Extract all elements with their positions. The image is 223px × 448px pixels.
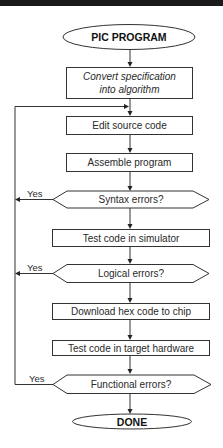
step-test-code-in-simulator: Test code in simulator	[53, 230, 210, 247]
end-node: DONE	[73, 414, 192, 429]
arrowhead-icon	[128, 335, 133, 340]
arrowhead-icon	[128, 224, 133, 229]
decision-syntax-errors: Syntax errors?	[53, 191, 209, 208]
arrowhead-icon	[128, 186, 133, 191]
start-node: PIC PROGRAM	[63, 25, 195, 50]
arrowhead-icon	[128, 259, 133, 264]
step-label: Assemble program	[88, 157, 172, 168]
arrowhead-icon	[128, 111, 133, 116]
decision-logical-errors: Logical errors?	[53, 265, 209, 283]
flowchart: PIC PROGRAM Convert specification into a…	[0, 0, 223, 448]
end-label: DONE	[117, 416, 147, 428]
step-label: Edit source code	[92, 120, 167, 131]
yes-label: Yes	[27, 188, 43, 199]
decision-label: Functional errors?	[91, 379, 172, 390]
decision-label: Syntax errors?	[98, 194, 163, 205]
step-download-hex-code: Download hex code to chip	[53, 304, 210, 320]
step-label-line-1: Convert specification	[83, 71, 176, 82]
step-edit-source-code: Edit source code	[67, 117, 193, 135]
step-label-line-2: into algorithm	[99, 84, 159, 95]
step-test-code-in-target-hardware: Test code in target hardware	[53, 341, 210, 356]
yes-label: Yes	[29, 373, 45, 384]
arrowhead-icon	[124, 104, 129, 109]
arrowhead-icon	[15, 271, 20, 276]
decision-label: Logical errors?	[98, 268, 165, 279]
step-convert-specification: Convert specification into algorithm	[67, 68, 193, 99]
step-label: Test code in simulator	[83, 233, 180, 244]
start-label: PIC PROGRAM	[91, 31, 167, 43]
yes-label: Yes	[27, 262, 43, 273]
step-assemble-program: Assemble program	[67, 154, 193, 172]
arrowhead-icon	[128, 369, 133, 374]
step-label: Download hex code to chip	[71, 306, 192, 317]
decision-functional-errors: Functional errors?	[53, 375, 211, 394]
arrowhead-icon	[15, 197, 20, 202]
arrowhead-icon	[128, 148, 133, 153]
arrowhead-icon	[128, 62, 133, 67]
arrowhead-icon	[128, 409, 133, 414]
arrowhead-icon	[128, 298, 133, 303]
step-label: Test code in target hardware	[68, 343, 195, 354]
